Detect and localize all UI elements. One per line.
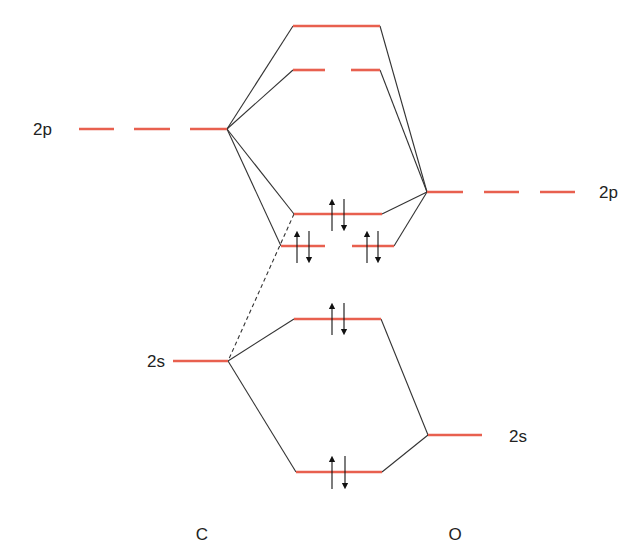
- atom-label-oxygen: O: [448, 525, 461, 544]
- connector-lines: [227, 26, 428, 472]
- dashed-connector-lines: [228, 214, 294, 361]
- electron-pairs: [297, 199, 378, 489]
- atom-label-carbon: C: [196, 525, 208, 544]
- o-2p-label: 2p: [599, 183, 618, 202]
- connector-line: [380, 26, 427, 192]
- connector-line: [228, 319, 294, 361]
- connector-line: [227, 26, 293, 129]
- dashed-connector-line: [228, 214, 294, 361]
- connector-line: [228, 361, 296, 472]
- connector-line: [382, 435, 428, 472]
- c-2p-label: 2p: [33, 120, 52, 139]
- orbital-labels: 2p2s2p2s: [33, 120, 618, 446]
- c-2s-label: 2s: [147, 352, 165, 371]
- mo-diagram-co: 2p2s2p2s C O: [0, 0, 642, 556]
- energy-levels: [79, 26, 575, 472]
- connector-line: [380, 70, 427, 192]
- connector-line: [227, 70, 293, 129]
- o-2s-label: 2s: [509, 427, 527, 446]
- connector-line: [381, 319, 428, 435]
